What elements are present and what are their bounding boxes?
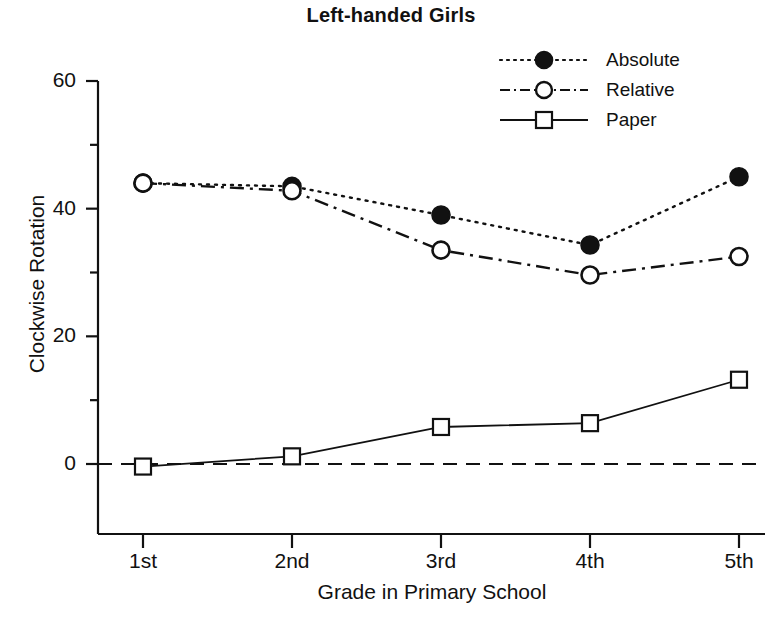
series-markers: [134, 168, 748, 475]
data-point-relative-3rd: [433, 242, 450, 259]
data-point-paper-2nd: [284, 448, 300, 464]
plot-area: [0, 0, 782, 620]
data-point-paper-1st: [135, 459, 151, 475]
data-point-paper-4th: [582, 415, 598, 431]
data-point-relative-5th: [731, 248, 748, 265]
data-point-absolute-5th: [730, 168, 748, 186]
data-point-relative-2nd: [284, 182, 301, 199]
data-point-absolute-3rd: [432, 206, 450, 224]
data-point-paper-5th: [731, 372, 747, 388]
data-point-paper-3rd: [433, 419, 449, 435]
x-axis-ticks: [143, 534, 739, 548]
series-line-relative: [143, 183, 739, 275]
data-point-relative-1st: [135, 175, 152, 192]
data-point-relative-4th: [582, 267, 599, 284]
data-point-absolute-4th: [581, 236, 599, 254]
y-axis-ticks: [86, 81, 98, 464]
chart-figure: Left-handed Girls Absolute Relative: [0, 0, 782, 620]
